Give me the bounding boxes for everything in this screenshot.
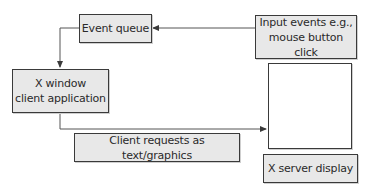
client-application-box: X window client application	[12, 69, 109, 113]
event-queue-box: Event queue	[79, 14, 152, 43]
arrow-client-to-display	[60, 112, 266, 129]
display-screen-box	[268, 63, 352, 149]
server-display-label: X server display	[268, 161, 353, 176]
client-application-label: X window client application	[15, 76, 106, 106]
event-queue-label: Event queue	[82, 21, 149, 36]
server-display-box: X server display	[263, 154, 358, 183]
client-requests-box: Client requests as text/graphics	[74, 133, 240, 162]
input-events-box: Input events e.g., mouse button click	[255, 15, 357, 59]
client-requests-label: Client requests as text/graphics	[75, 133, 239, 163]
arrow-queue-to-client	[60, 28, 79, 67]
input-events-label: Input events e.g., mouse button click	[256, 15, 356, 60]
